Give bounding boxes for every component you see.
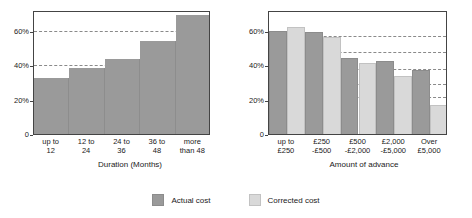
y-tick-mark (265, 135, 268, 136)
bar-actual (34, 78, 69, 134)
legend-label: Actual cost (171, 196, 210, 205)
bar-corrected (359, 63, 377, 134)
bar-corrected (287, 27, 305, 134)
x-tick-label: £2,000 -£5,000 (381, 137, 406, 155)
bar-actual (176, 15, 210, 134)
x-tick-label: £250 -£500 (312, 137, 331, 155)
bar-actual (69, 68, 104, 134)
legend-swatch-actual (152, 194, 164, 206)
x-axis-title-right: Amount of advance (246, 160, 472, 169)
bar-actual (305, 32, 323, 134)
bar-actual (269, 31, 287, 134)
y-axis-left: 020%40%60% (0, 0, 33, 186)
legend-swatch-corrected (249, 194, 261, 206)
x-tick-label: up to 12 (42, 137, 59, 155)
bar-corrected (394, 76, 412, 134)
bar-actual (341, 58, 359, 134)
legend-label: Corrected cost (268, 196, 320, 205)
bar-actual (140, 41, 175, 134)
bar-actual (376, 61, 394, 134)
bar-actual (105, 59, 140, 134)
x-tick-label: 12 to 24 (78, 137, 95, 155)
x-tick-label: 24 to 36 (113, 137, 130, 155)
legend: Actual costCorrected cost (0, 190, 472, 210)
y-tick-label: 40% (14, 62, 29, 70)
x-axis-title-left: Duration (Months) (12, 160, 248, 169)
x-tick-label: £500 -£2,000 (345, 137, 370, 155)
legend-item: Actual cost (152, 194, 210, 206)
x-tick-label: 36 to 48 (149, 137, 166, 155)
y-tick-label: 60% (249, 28, 264, 36)
x-tick-label: more than 48 (180, 137, 205, 155)
plot-area-left (33, 11, 210, 135)
y-tick-label: 20% (249, 97, 264, 105)
bar-corrected (430, 105, 447, 134)
chart-duration: 020%40%60% up to 1212 to 2424 to 3636 to… (0, 0, 236, 186)
plot-area-right (268, 11, 447, 135)
y-tick-label: 0 (260, 131, 264, 139)
chart-advance: 020%40%60% up to £250£250 -£500£500 -£2,… (236, 0, 472, 186)
y-tick-label: 40% (249, 62, 264, 70)
bar-actual (412, 70, 430, 134)
y-tick-label: 60% (14, 28, 29, 36)
bar-corrected (323, 37, 341, 134)
legend-item: Corrected cost (249, 194, 320, 206)
y-axis-right: 020%40%60% (236, 0, 268, 186)
y-tick-label: 20% (14, 97, 29, 105)
x-tick-label: Over £5,000 (418, 137, 441, 155)
figure: 020%40%60% up to 1212 to 2424 to 3636 to… (0, 0, 472, 218)
y-tick-label: 0 (25, 131, 29, 139)
y-tick-mark (30, 135, 33, 136)
x-tick-label: up to £250 (278, 137, 295, 155)
